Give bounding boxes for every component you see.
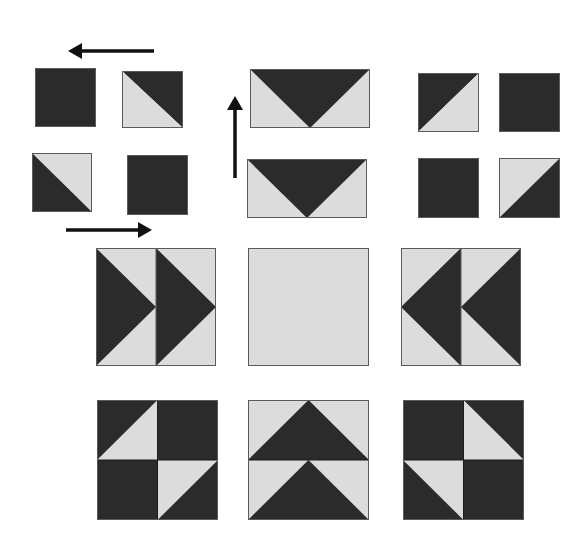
hst-group-left-square-4 (127, 155, 188, 215)
arrow-left-icon (68, 43, 154, 59)
block-hst-left (97, 400, 218, 520)
block-geese-left (401, 248, 521, 366)
hst-group-right-square-4 (499, 158, 560, 218)
block-hst-right (403, 400, 524, 520)
hst-group-left-square-2 (122, 71, 183, 128)
block-geese-right (96, 248, 216, 366)
hst-group-right-square-1 (418, 73, 479, 132)
blocks (96, 248, 524, 520)
hst-group-right-square-2 (499, 73, 560, 132)
hst-group-left-square-3 (32, 153, 92, 212)
hst-group-right-square-3 (418, 158, 479, 218)
block-geese-up (248, 400, 369, 520)
arrow-up-icon (227, 96, 243, 178)
flying-geese-top (250, 69, 370, 128)
block-plain-center (248, 248, 369, 366)
units (32, 68, 560, 218)
flying-geese-bottom (247, 159, 367, 218)
arrow-right-icon (66, 222, 152, 238)
quilt-diagram (0, 0, 575, 548)
hst-group-left-square-1 (35, 68, 96, 127)
